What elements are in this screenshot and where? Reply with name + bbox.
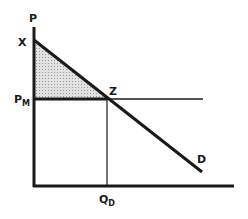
economics-diagram: P X PM Z D QD bbox=[0, 0, 248, 219]
demand-curve-label: D bbox=[197, 153, 206, 166]
demand-curve bbox=[34, 40, 202, 172]
intersection-label: Z bbox=[109, 85, 117, 98]
intercept-label: X bbox=[18, 36, 27, 49]
quantity-label: QD bbox=[99, 193, 115, 208]
y-axis-label: P bbox=[29, 12, 37, 25]
price-level-label: PM bbox=[14, 93, 30, 108]
